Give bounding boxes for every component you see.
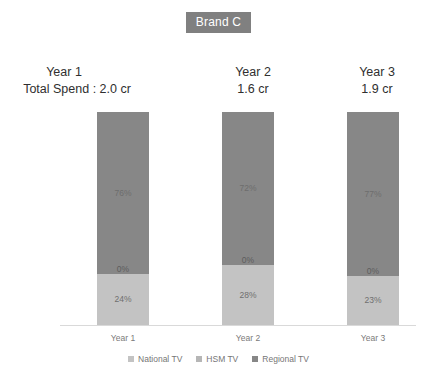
bar-segment-regional-tv[interactable]: 77% (347, 112, 399, 276)
bar-segment-regional-tv[interactable]: 72% (222, 112, 274, 265)
bar-segment-value-label: 0% (242, 256, 254, 265)
legend-item-regional-tv[interactable]: Regional TV (252, 354, 309, 364)
chart-legend: National TV HSM TV Regional TV (0, 354, 437, 364)
bar-segment-value-label: 0% (117, 265, 129, 274)
legend-item-hsm-tv[interactable]: HSM TV (196, 354, 238, 364)
axis-label-year-1: Year 1 (63, 333, 183, 343)
axis-label-year-2: Year 2 (188, 333, 308, 343)
bar-segment-value-label: 0% (367, 267, 379, 276)
bar-segment-value-label: 72% (239, 184, 256, 193)
legend-label: HSM TV (206, 354, 238, 364)
bar-segment-national-tv[interactable]: 23% (347, 276, 399, 325)
stacked-bar-year-3[interactable]: 77% 0% 23% (347, 112, 399, 325)
legend-label: Regional TV (262, 354, 309, 364)
bar-segment-national-tv[interactable]: 28% (222, 265, 274, 325)
legend-swatch-icon (196, 356, 202, 362)
bar-segment-value-label: 76% (114, 189, 131, 198)
bar-segment-value-label: 28% (239, 291, 256, 300)
legend-swatch-icon (128, 356, 134, 362)
bar-segment-value-label: 24% (114, 295, 131, 304)
legend-item-national-tv[interactable]: National TV (128, 354, 182, 364)
stacked-bar-year-2[interactable]: 72% 0% 28% (222, 112, 274, 325)
bar-segment-value-label: 23% (364, 296, 381, 305)
stacked-bar-year-1[interactable]: 76% 0% 24% (97, 112, 149, 325)
axis-label-year-3: Year 3 (313, 333, 433, 343)
legend-swatch-icon (252, 356, 258, 362)
bar-segment-value-label: 77% (364, 190, 381, 199)
bar-segment-national-tv[interactable]: 24% (97, 274, 149, 325)
legend-label: National TV (138, 354, 182, 364)
category-axis-line (60, 325, 416, 326)
chart-plot-area: 76% 0% 24% 72% 0% 28% 77% 0% 23% Year 1 … (0, 0, 437, 381)
bar-segment-regional-tv[interactable]: 76% (97, 112, 149, 274)
